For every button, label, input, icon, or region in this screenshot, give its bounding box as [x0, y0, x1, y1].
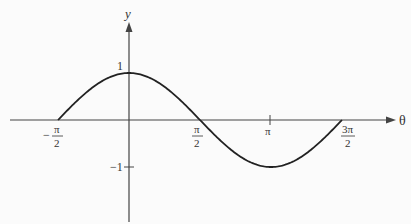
svg-text:2: 2	[54, 137, 60, 149]
x-axis-label: θ	[399, 113, 406, 128]
x-tick-label-pi: π	[265, 125, 271, 137]
svg-text:π: π	[54, 123, 60, 135]
x-tick-label-neg-half-pi: − π 2	[43, 123, 63, 149]
svg-text:2: 2	[194, 137, 200, 149]
svg-text:2: 2	[345, 137, 351, 149]
x-axis-arrow-icon	[386, 117, 396, 124]
y-axis-arrow-icon	[126, 22, 133, 32]
svg-text:π: π	[194, 123, 200, 135]
x-tick-label-half-pi: π 2	[192, 123, 203, 149]
cosine-plot: y θ 1 −1 − π 2 π 2 π 3π 2	[0, 0, 411, 224]
y-tick-label-neg1: −1	[110, 160, 123, 174]
x-tick-label-three-half-pi: 3π 2	[341, 123, 355, 149]
svg-text:−: −	[43, 128, 50, 142]
y-tick-label-1: 1	[117, 59, 123, 73]
y-axis-label: y	[123, 6, 131, 21]
svg-text:3π: 3π	[342, 123, 354, 135]
